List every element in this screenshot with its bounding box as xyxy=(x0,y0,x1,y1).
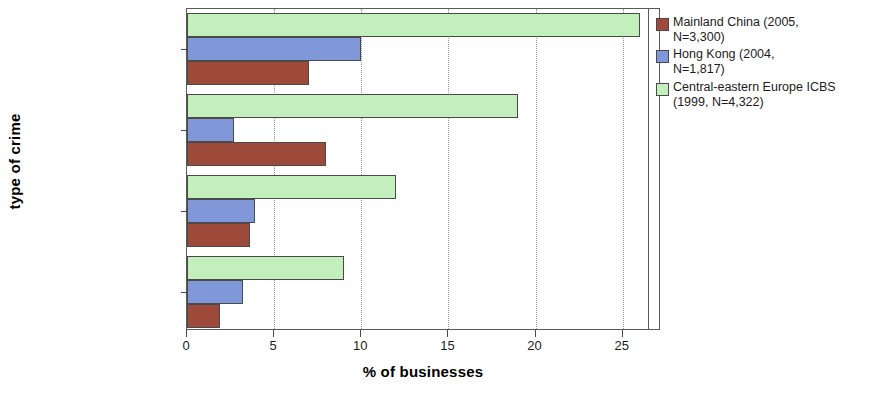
x-tick-label: 0 xyxy=(166,338,206,353)
x-axis-title: % of businesses xyxy=(186,363,660,380)
legend-label: Central-eastern Europe ICBS (1999, N=4,3… xyxy=(673,80,836,109)
bar xyxy=(187,223,250,247)
legend-swatch xyxy=(656,83,669,96)
bar xyxy=(187,37,361,61)
bar xyxy=(187,94,518,118)
x-tick-label: 20 xyxy=(515,338,555,353)
y-tick-mark xyxy=(181,292,187,293)
x-tick-mark xyxy=(447,330,448,337)
y-tick-mark xyxy=(181,130,187,131)
bar xyxy=(187,175,396,199)
legend-entry: Mainland China (2005, N=3,300) xyxy=(656,15,799,44)
bar xyxy=(187,118,234,142)
plot-area: fraud by outsidersbriberyfraud by employ… xyxy=(186,8,660,330)
x-tick-mark xyxy=(273,330,274,337)
y-tick-mark xyxy=(181,211,187,212)
x-tick-mark xyxy=(622,330,623,337)
x-tick-label: 5 xyxy=(253,338,293,353)
bar xyxy=(187,13,640,37)
bar-group xyxy=(187,92,659,173)
bar-group xyxy=(187,254,659,335)
bar xyxy=(187,256,344,280)
bar-group xyxy=(187,11,659,92)
x-tick-mark xyxy=(535,330,536,337)
bar xyxy=(187,280,243,304)
y-axis-title: type of crime xyxy=(6,62,23,262)
legend-entry: Hong Kong (2004, N=1,817) xyxy=(656,47,774,76)
x-tick-mark xyxy=(360,330,361,337)
legend-swatch xyxy=(656,18,669,31)
bar-group xyxy=(187,173,659,254)
legend-label: Mainland China (2005, N=3,300) xyxy=(673,15,799,44)
y-tick-mark xyxy=(181,49,187,50)
legend-entry: Central-eastern Europe ICBS (1999, N=4,3… xyxy=(656,80,836,109)
x-tick-label: 15 xyxy=(427,338,467,353)
x-tick-label: 25 xyxy=(602,338,642,353)
x-tick-mark xyxy=(186,330,187,337)
bar xyxy=(187,304,220,328)
legend: Mainland China (2005, N=3,300)Hong Kong … xyxy=(648,8,874,330)
legend-label: Hong Kong (2004, N=1,817) xyxy=(673,47,774,76)
x-tick-label: 10 xyxy=(340,338,380,353)
bar-chart: type of crime fraud by outsidersbriberyf… xyxy=(0,0,874,394)
bar xyxy=(187,61,309,85)
legend-swatch xyxy=(656,50,669,63)
bar xyxy=(187,142,326,166)
bar xyxy=(187,199,255,223)
